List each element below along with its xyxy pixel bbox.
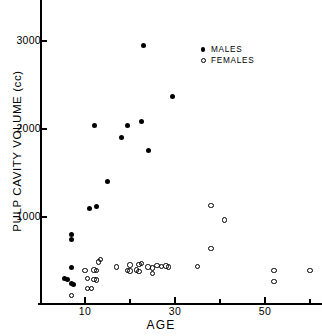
data-point-males bbox=[69, 265, 74, 270]
data-point-females bbox=[222, 217, 227, 222]
data-point-females bbox=[208, 203, 213, 208]
x-tick-mark bbox=[264, 297, 266, 304]
x-tick-label: 30 bbox=[160, 305, 190, 317]
data-point-males bbox=[69, 232, 74, 237]
data-point-males bbox=[69, 237, 74, 242]
data-point-females bbox=[85, 276, 90, 281]
y-tick-mark bbox=[42, 40, 47, 41]
data-point-females bbox=[94, 268, 99, 273]
filled-circle-icon bbox=[198, 47, 208, 52]
x-minor-tick-mark bbox=[309, 299, 310, 304]
data-point-females bbox=[96, 259, 101, 264]
x-minor-tick-mark bbox=[219, 299, 220, 304]
y-tick-label: 3000 bbox=[1, 34, 41, 46]
x-tick-mark bbox=[84, 297, 86, 304]
data-point-females bbox=[271, 279, 276, 284]
data-point-males bbox=[71, 282, 76, 287]
data-point-females bbox=[89, 286, 94, 291]
data-point-males bbox=[125, 123, 130, 128]
x-tick-label: 50 bbox=[250, 305, 280, 317]
data-point-females bbox=[271, 268, 276, 273]
data-point-females bbox=[82, 268, 87, 273]
data-point-females bbox=[195, 264, 200, 269]
data-point-males bbox=[94, 204, 99, 209]
data-point-females bbox=[136, 269, 141, 274]
legend-item-males: MALES bbox=[198, 44, 254, 55]
legend-label-females: FEMALES bbox=[208, 55, 254, 66]
y-tick-mark bbox=[42, 216, 47, 217]
data-point-males bbox=[119, 135, 124, 140]
scatter-plot-figure: PULP CAVITY VOLUME (cc) AGE 100020003000… bbox=[0, 0, 322, 336]
data-point-females bbox=[127, 262, 132, 267]
data-point-females bbox=[114, 264, 119, 269]
y-tick-label: 1000 bbox=[1, 210, 41, 222]
data-point-females bbox=[307, 268, 312, 273]
data-point-males bbox=[139, 119, 144, 124]
open-circle-icon bbox=[198, 58, 208, 63]
data-point-males bbox=[87, 206, 92, 211]
data-point-males bbox=[92, 123, 97, 128]
data-point-females bbox=[150, 265, 155, 270]
data-point-males bbox=[141, 43, 146, 48]
legend-label-males: MALES bbox=[208, 44, 243, 55]
chart-legend: MALES FEMALES bbox=[198, 44, 254, 66]
data-point-females bbox=[150, 271, 155, 276]
data-point-males bbox=[170, 94, 175, 99]
data-point-females bbox=[69, 293, 74, 298]
y-tick-label: 2000 bbox=[1, 122, 41, 134]
data-point-males bbox=[146, 148, 151, 153]
legend-item-females: FEMALES bbox=[198, 55, 254, 66]
data-point-females bbox=[208, 246, 213, 251]
data-point-females bbox=[166, 264, 171, 269]
x-axis-label: AGE bbox=[0, 318, 322, 332]
data-point-females bbox=[94, 277, 99, 282]
data-point-females bbox=[127, 268, 132, 273]
x-minor-tick-mark bbox=[129, 299, 130, 304]
data-point-males bbox=[105, 179, 110, 184]
y-tick-mark bbox=[42, 128, 47, 129]
x-tick-label: 10 bbox=[70, 305, 100, 317]
x-tick-mark bbox=[174, 297, 176, 304]
